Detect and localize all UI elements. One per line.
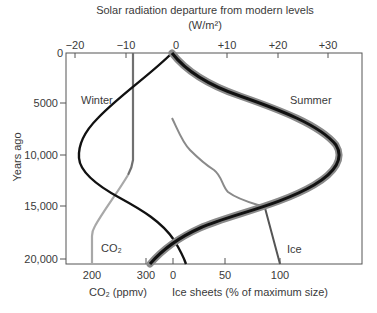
chart-title: Solar radiation departure from modern le…	[96, 4, 314, 16]
ice-annotation: Ice	[287, 243, 302, 255]
top-tick-label: 0	[173, 39, 179, 51]
y-tick-label: 20,000	[24, 253, 58, 265]
top-tick-label: +10	[218, 39, 237, 51]
ice-tick-label: 50	[219, 269, 231, 281]
ice-line-lower	[258, 205, 280, 264]
summer-annotation: Summer	[290, 94, 332, 106]
co2-tick-label: 200	[83, 269, 101, 281]
y-tick-label: 0	[57, 47, 63, 59]
ice-tick-label: 0	[170, 269, 176, 281]
chart: Solar radiation departure from modern le…	[0, 0, 377, 313]
y-tick-label: 15,000	[24, 200, 58, 212]
top-tick-label: −20	[66, 39, 85, 51]
ice-axis-label: Ice sheets (% of maximum size)	[172, 286, 328, 298]
top-tick-label: −10	[117, 39, 136, 51]
co2-line-upper	[128, 53, 133, 175]
top-tick-label: +30	[319, 39, 338, 51]
co2-annotation: CO₂	[101, 242, 122, 254]
ice-line-upper	[172, 118, 258, 205]
summer-line-halo	[150, 53, 339, 264]
y-tick-label: 5000	[34, 97, 58, 109]
y-axis-label: Years ago	[11, 132, 23, 181]
winter-annotation: Winter	[81, 94, 113, 106]
co2-axis-label: CO₂ (ppmv)	[89, 286, 147, 298]
co2-tick-label: 300	[137, 269, 155, 281]
chart-title-units: (W/m²)	[188, 19, 222, 31]
ice-tick-label: 100	[271, 269, 289, 281]
y-axis: 0 5000 10,000 15,000 20,000 Years ago	[11, 47, 66, 265]
y-tick-label: 10,000	[24, 149, 58, 161]
summer-line	[150, 53, 339, 264]
top-axis: −20 −10 0 +10 +20 +30	[66, 39, 338, 58]
top-tick-label: +20	[269, 39, 288, 51]
